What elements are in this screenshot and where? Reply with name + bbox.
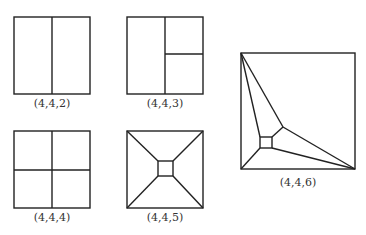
diagram-canvas bbox=[0, 0, 366, 235]
corner-edge-br bbox=[173, 176, 203, 208]
figure-label-4-4-6: (4,4,6) bbox=[280, 176, 317, 189]
edge-tl-to-inner bbox=[241, 53, 260, 137]
outer-square bbox=[241, 53, 355, 169]
inner-square bbox=[158, 161, 173, 176]
edge-tl-to-junction bbox=[241, 53, 283, 127]
figure-label-4-4-5: (4,4,5) bbox=[147, 211, 184, 224]
figure-4-4-5 bbox=[127, 131, 203, 208]
edge-junction-to-br bbox=[283, 127, 355, 169]
figure-4-4-3 bbox=[127, 17, 203, 94]
figure-label-4-4-3: (4,4,3) bbox=[147, 97, 184, 110]
figure-4-4-4 bbox=[14, 131, 90, 208]
edge-inner-to-bl bbox=[241, 148, 260, 169]
corner-edge-bl bbox=[127, 176, 158, 208]
edge-inner-to-br bbox=[272, 148, 355, 169]
edge-junction-to-inner bbox=[272, 127, 283, 137]
figure-4-4-6 bbox=[241, 53, 355, 169]
corner-edge-tl bbox=[127, 131, 158, 161]
inner-square bbox=[260, 137, 272, 148]
corner-edge-tr bbox=[173, 131, 203, 161]
figure-label-4-4-4: (4,4,4) bbox=[34, 211, 71, 224]
figure-label-4-4-2: (4,4,2) bbox=[34, 97, 71, 110]
figure-4-4-2 bbox=[14, 17, 90, 94]
